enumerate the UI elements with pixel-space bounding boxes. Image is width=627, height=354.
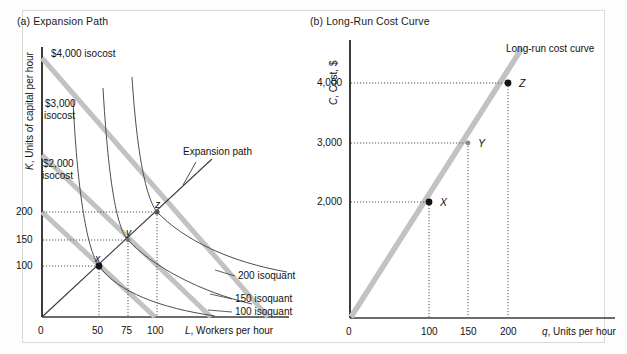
panel-a-x-axis-label: L, Workers per hour — [185, 325, 273, 336]
panel-b-ytick-2000: 2,000 — [317, 196, 342, 207]
panel-b-xtick-200: 200 — [500, 326, 517, 337]
isoquant-100-leader — [208, 310, 232, 312]
panel-b-ytick-3000: 3,000 — [317, 137, 342, 148]
panel-a-ytick-200: 200 — [16, 206, 33, 217]
panel-b-xtick-100: 100 — [421, 326, 438, 337]
isocost-2000-label-line1: $2,000 — [43, 158, 74, 169]
isocost-3000-label-line2: isocost — [44, 110, 75, 121]
isoquant-200-curve — [132, 77, 287, 272]
panel-a-x-axis-label-text: , Workers per hour — [191, 325, 274, 336]
point-X-dot — [426, 199, 433, 206]
point-y-label: y — [126, 226, 131, 238]
panel-long-run-cost-curve: (b) Long-Run Cost Curve C, Cost, $ Lon — [310, 0, 627, 354]
panel-b-x-axis-label: q, Units per hour — [542, 326, 616, 337]
expansion-path-label: Expansion path — [183, 146, 252, 157]
panel-a-origin-label: 0 — [38, 325, 44, 336]
long-run-cost-curve-label: Long-run cost curve — [506, 43, 594, 54]
panel-a-xtick-50: 50 — [92, 325, 103, 336]
point-Y-label: Y — [478, 137, 485, 149]
isoquant-200-label: 200 isoquant — [238, 270, 295, 281]
point-Z-label: Z — [519, 77, 525, 89]
panel-b-origin-label: 0 — [346, 326, 352, 337]
isocost-3000-label-line1: $3,000 — [45, 98, 76, 109]
isoquant-150-label: 150 isoquant — [235, 293, 292, 304]
point-z-dot — [154, 209, 159, 214]
long-run-cost-curve-line — [351, 48, 522, 317]
isocost-4000-label: $4,000 isocost — [51, 48, 116, 59]
point-Z-dot — [505, 80, 512, 87]
panel-a-ytick-100: 100 — [16, 260, 33, 271]
expansion-path-leader — [183, 162, 196, 185]
point-Y-dot — [466, 141, 471, 146]
panel-b-xtick-150: 150 — [460, 326, 477, 337]
panel-expansion-path: (a) Expansion Path K, Units of capital p… — [0, 0, 310, 354]
panel-a-xtick-75: 75 — [121, 325, 132, 336]
panel-b-ytick-4000: 4,000 — [317, 77, 342, 88]
point-X-label: X — [440, 196, 447, 208]
panel-b-x-axis-label-text: , Units per hour — [548, 326, 616, 337]
isoquant-100-label: 100 isoquant — [235, 306, 292, 317]
figure-container: (a) Expansion Path K, Units of capital p… — [0, 0, 627, 354]
panel-a-xtick-100: 100 — [147, 325, 164, 336]
point-x-label: x — [95, 252, 100, 264]
point-y-dot — [126, 238, 130, 242]
point-z-label: z — [155, 198, 160, 210]
isocost-2000-label-line2: isocost — [42, 170, 73, 181]
panel-a-ytick-150: 150 — [16, 234, 33, 245]
